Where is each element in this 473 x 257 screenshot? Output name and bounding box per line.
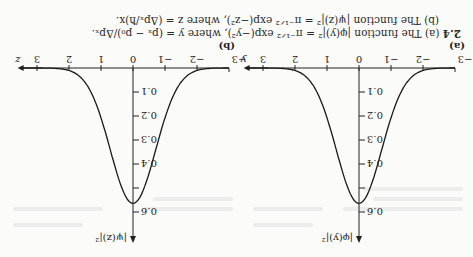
y-axis-arrow-icon [130,236,136,243]
x-tick-label: 3 [34,54,40,65]
caption-b: (b) The function |ψ(z)|² = π⁻¹ᐟ² exp(−z²… [116,15,439,27]
gaussian-curve [23,68,229,203]
y-axis-label: |φ(y)|² [322,232,353,244]
x-tick-label: −1 [384,54,399,65]
x-tick-label: −3 [458,54,473,65]
x-tick-label: 0 [356,54,362,65]
x-tick-label: 2 [292,54,298,65]
y-tick-label: 0.3 [141,134,157,145]
gaussian-curve [249,68,455,203]
figure-page: y−3−2−10123|φ(y)|²0.10.20.30.40.6z−3−2−1… [0,0,473,257]
y-tick-label: 0.1 [367,86,383,97]
y-tick-label: 0.2 [367,110,383,121]
x-tick-label: 1 [98,54,104,65]
x-tick-label: −3 [232,54,247,65]
figure-number: 2.4 [443,28,461,40]
figure-caption: 2.4 (a) The function |φ(y)|² = π⁻¹ᐟ² exp… [6,14,461,40]
caption-a: (a) The function |φ(y)|² = π⁻¹ᐟ² exp(−y²… [92,28,440,40]
y-axis-label: |ψ(z)|² [95,232,127,244]
x-tick-label: 2 [66,54,72,65]
x-tick-label: 1 [324,54,330,65]
panel-label-a: (a) [449,41,465,52]
y-tick-label: 0.4 [367,158,383,169]
x-tick-label: 0 [130,54,136,65]
x-tick-label: −2 [190,54,205,65]
y-tick-label: 0.1 [141,86,157,97]
y-tick-label: 0.3 [367,134,383,145]
y-tick-label: 0.4 [141,158,157,169]
y-tick-label: 0.6 [367,206,383,217]
y-tick-label: 0.6 [141,206,157,217]
panel-label-b: (b) [219,41,235,52]
y-tick-label: 0.2 [141,110,157,121]
y-axis-arrow-icon [356,236,362,243]
x-tick-label: −2 [416,54,431,65]
x-tick-label: 3 [260,54,266,65]
x-axis-label: z [15,55,22,66]
x-tick-label: −1 [158,54,173,65]
